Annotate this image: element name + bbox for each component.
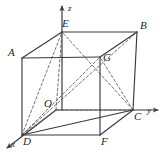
vertex-label-F: F (101, 136, 108, 147)
edge-B-C (133, 32, 137, 110)
vertex-label-E: E (62, 18, 69, 29)
diagonal-C-E (62, 32, 133, 110)
axes-group (7, 6, 158, 148)
vertex-label-B: B (140, 20, 147, 31)
axis-label-y: y (147, 106, 151, 115)
cube-diagram-canvas (0, 0, 160, 155)
vertex-label-G: G (103, 52, 111, 63)
vertex-label-D: D (23, 136, 31, 147)
diagonal-C-G (100, 57, 133, 110)
axis-label-z: z (68, 4, 72, 13)
edge-A-G (22, 57, 100, 58)
vertex-label-A: A (8, 47, 15, 58)
edge-A-E (22, 32, 62, 58)
edge-O-E (56, 32, 62, 110)
diagonal-D-E (22, 32, 62, 135)
vertex-label-C: C (134, 111, 141, 122)
axis-label-x: x (11, 140, 15, 149)
vertex-label-O: O (44, 98, 52, 109)
diagonal-D-G (22, 57, 100, 135)
geometry-figure: zyxABCDEFGO (0, 0, 160, 155)
